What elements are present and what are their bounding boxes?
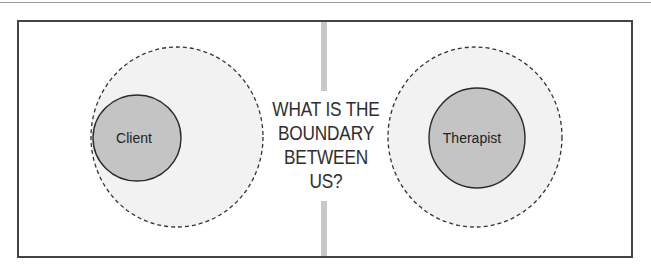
client-group: Client [91,47,263,227]
client-label: Client [116,130,152,146]
question-line-3: BETWEEN [260,145,391,169]
therapist-group: Therapist [388,47,562,227]
divider-bottom [321,201,327,256]
question-line-2: BOUNDARY [260,121,391,145]
therapist-label: Therapist [443,130,501,146]
boundary-question: WHAT IS THE BOUNDARY BETWEEN US? [246,97,406,193]
question-line-4: US? [260,169,391,193]
divider-top [321,22,327,91]
question-line-1: WHAT IS THE [260,97,391,121]
